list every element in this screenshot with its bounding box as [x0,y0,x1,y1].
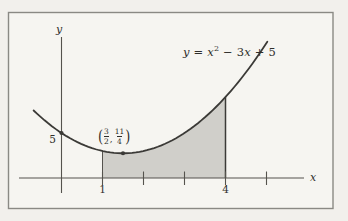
vertex-fraction-x: 3 2 [104,128,109,146]
plot-svg [0,0,348,221]
figure-canvas: y x y = x2 − 3x + 5 ( 3 2 , 11 4 ) 5 1 4 [0,0,348,221]
figure-frame [9,13,334,209]
y-intercept-value: 5 [42,134,56,145]
y-axis-label: y [56,24,62,35]
x-tick-label-1: 1 [97,184,109,195]
vertex-fraction-y: 11 4 [115,128,125,146]
equation-plus-term: + 5 [251,45,276,59]
vertex-open-paren: ( [98,129,103,145]
vertex-frac-x-num: 3 [104,128,109,136]
x-tick-label-4: 4 [220,184,232,195]
vertex-close-paren: ) [125,129,130,145]
equation-y: y [183,45,190,59]
vertex-frac-y-den: 4 [117,136,122,145]
vertex-label: ( 3 2 , 11 4 ) [98,128,130,146]
vertex-dot [121,151,125,155]
y-intercept-dot [59,131,63,135]
vertex-comma: , [110,135,113,144]
equation-equals: = [190,45,208,59]
equation-label: y = x2 − 3x + 5 [183,45,276,58]
vertex-frac-x-den: 2 [104,136,109,145]
equation-minus-term: − 3 [219,45,244,59]
equation-x: x [207,45,214,59]
vertex-frac-y-num: 11 [115,128,125,136]
equation-x2: x [244,45,251,59]
x-axis-label: x [310,172,316,183]
